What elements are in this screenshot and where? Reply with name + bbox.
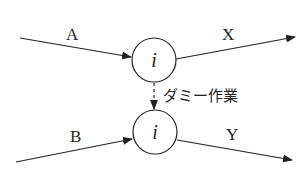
node-bottom: i <box>133 110 177 154</box>
activity-network-diagram: A X B Y ダミー作業 i i <box>0 0 308 180</box>
edge-dummy: ダミー作業 <box>154 83 238 109</box>
dummy-activity-label: ダミー作業 <box>163 87 238 105</box>
node-bottom-label: i <box>152 121 158 143</box>
node-top-label: i <box>151 49 157 71</box>
edge-a: A <box>20 25 131 57</box>
node-top: i <box>132 38 176 82</box>
edge-x-label: X <box>222 25 234 44</box>
edge-a-label: A <box>66 25 79 44</box>
edge-x: X <box>176 25 295 59</box>
edge-y: Y <box>177 125 292 160</box>
edge-b: B <box>16 127 132 162</box>
edge-y-label: Y <box>226 125 238 144</box>
edge-b-label: B <box>70 127 81 146</box>
